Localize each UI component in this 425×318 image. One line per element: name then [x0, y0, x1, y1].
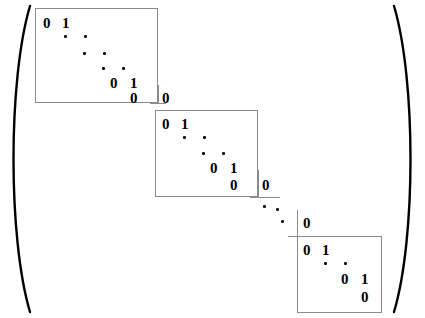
- jordan-block-1-diagonal-ellipsis-dot: [103, 52, 106, 55]
- jordan-block-1-diagonal-ellipsis-dot: [83, 52, 86, 55]
- jordan-block-2-lower-diagonal-entry: 0: [210, 161, 218, 176]
- jordan-block-1-top-superdiagonal-entry: 1: [62, 16, 70, 31]
- right-paren: [394, 6, 411, 312]
- left-paren: [14, 6, 31, 312]
- jordan-block-2-lower-superdiagonal-entry: 1: [230, 161, 238, 176]
- jordan-block-2-top-superdiagonal-entry: 1: [181, 117, 189, 132]
- jordan-block-1-lower-diagonal-entry: 0: [110, 76, 118, 91]
- jordan-block-1-diagonal-ellipsis-dot: [84, 35, 87, 38]
- corner-rule-h-2: [250, 197, 280, 198]
- inter-block-ellipsis-dot: [263, 205, 266, 208]
- matrix-figure: 010100101001010 000: [0, 0, 425, 318]
- jordan-block-1-diagonal-ellipsis-dot: [102, 67, 105, 70]
- jordan-block-2-top-diagonal-entry: 0: [162, 117, 170, 132]
- jordan-block-1-last-diagonal-entry: 0: [130, 91, 138, 106]
- jordan-block-3-diagonal-ellipsis-dot: [324, 262, 327, 265]
- zero-upper-right-1: 0: [162, 91, 170, 106]
- jordan-block-1-top-diagonal-entry: 0: [43, 16, 51, 31]
- jordan-block-1-diagonal-ellipsis-dot: [64, 35, 67, 38]
- jordan-block-3-top-diagonal-entry: 0: [303, 243, 311, 258]
- inter-block-ellipsis-dot: [281, 220, 284, 223]
- jordan-block-3-top-superdiagonal-entry: 1: [322, 243, 330, 258]
- zero-upper-right-3: 0: [303, 216, 311, 231]
- corner-rule-v-2: [258, 170, 259, 197]
- jordan-block-3-last-diagonal-entry: 0: [361, 290, 369, 305]
- zero-upper-right-2: 0: [262, 178, 270, 193]
- jordan-block-2: [155, 110, 258, 197]
- jordan-block-2-diagonal-ellipsis-dot: [222, 152, 225, 155]
- jordan-block-3-lower-diagonal-entry: 0: [341, 272, 349, 287]
- jordan-block-3-lower-superdiagonal-entry: 1: [361, 272, 369, 287]
- jordan-block-1-diagonal-ellipsis-dot: [122, 67, 125, 70]
- inter-block-ellipsis-dot: [276, 208, 279, 211]
- jordan-block-2-diagonal-ellipsis-dot: [203, 136, 206, 139]
- jordan-block-2-last-diagonal-entry: 0: [230, 178, 238, 193]
- corner-rule-v-1: [158, 85, 159, 103]
- corner-rule-v-3: [297, 210, 298, 236]
- jordan-block-2-diagonal-ellipsis-dot: [183, 136, 186, 139]
- jordan-block-1: [35, 8, 158, 103]
- jordan-block-3-diagonal-ellipsis-dot: [344, 262, 347, 265]
- jordan-block-1-lower-superdiagonal-entry: 1: [130, 76, 138, 91]
- jordan-block-2-diagonal-ellipsis-dot: [202, 152, 205, 155]
